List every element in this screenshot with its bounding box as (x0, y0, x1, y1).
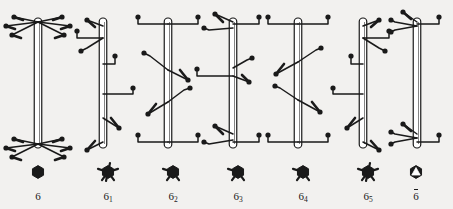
arm-end-dot (388, 29, 393, 34)
symbol-axis-6-bar (400, 161, 432, 183)
arm-barb (403, 12, 411, 19)
axis-label-axis-6: 6 (18, 190, 58, 202)
symbol-axis-6-2 (157, 161, 189, 183)
axis-label-axis-6-3: 63 (218, 190, 258, 202)
symbol-hexagon (232, 166, 243, 179)
arm-end-dot (436, 132, 441, 137)
symbol-axis-6-3 (222, 161, 254, 183)
rotation-axis-rod (413, 18, 421, 148)
symbol-hexagon (297, 166, 308, 179)
symbol-hexagon (167, 166, 178, 179)
axis-label-axis-6-4: 64 (283, 190, 323, 202)
axis-diagram-axis-6-bar (0, 0, 453, 160)
axis-label-axis-6-bar: 6 (396, 190, 436, 202)
symbol-hexagon (32, 166, 43, 179)
arm-barb (403, 124, 411, 131)
axis-label-axis-6-2: 62 (153, 190, 193, 202)
axis-label-axis-6-5: 65 (348, 190, 388, 202)
arm-end-dot (388, 141, 393, 146)
symbol-axis-6-5 (352, 161, 384, 183)
arm-end-dot (388, 17, 393, 22)
symbol-hexagon (102, 166, 113, 179)
symbol-hexagon (362, 166, 373, 179)
symbol-axis-6-4 (287, 161, 319, 183)
crystallographic-axes-figure: 661626364656 (0, 0, 453, 209)
symbol-axis-6 (22, 161, 54, 183)
symbol-axis-6-1 (92, 161, 124, 183)
arm-end-dot (388, 129, 393, 134)
arm-end-dot (436, 14, 441, 19)
axis-label-axis-6-1: 61 (88, 190, 128, 202)
